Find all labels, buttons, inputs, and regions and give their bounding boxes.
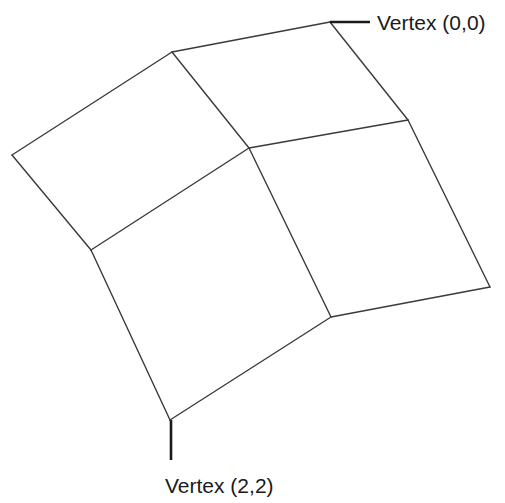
- mesh-edge-0-0-to-1-0: [172, 22, 330, 52]
- mesh-edge-1-1-to-1-2: [249, 148, 331, 317]
- quad-mesh-diagram: Vertex (0,0) Vertex (2,2): [0, 0, 505, 503]
- vertex-0-0-label: Vertex (0,0): [377, 11, 486, 34]
- mesh-edge-2-0-to-2-1: [12, 155, 91, 250]
- mesh-edge-2-1-to-2-2: [91, 250, 170, 420]
- mesh-edge-0-0-to-0-1: [330, 22, 408, 120]
- vertex-2-2-label: Vertex (2,2): [165, 474, 274, 497]
- mesh-edge-0-1-to-0-2: [408, 120, 490, 287]
- mesh-edge-0-2-to-1-2: [331, 287, 490, 317]
- mesh-edge-0-1-to-1-1: [249, 120, 408, 148]
- mesh-edge-1-1-to-2-1: [91, 148, 249, 250]
- mesh-edges: [12, 22, 490, 420]
- mesh-edge-1-0-to-2-0: [12, 52, 172, 155]
- mesh-edge-1-2-to-2-2: [170, 317, 331, 420]
- mesh-edge-1-0-to-1-1: [172, 52, 249, 148]
